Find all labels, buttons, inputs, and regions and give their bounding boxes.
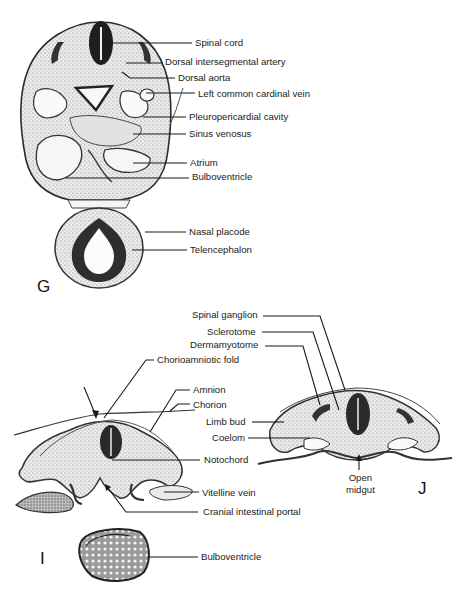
- label-notochord: Notochord: [204, 455, 248, 465]
- panel-j-section: [258, 388, 452, 464]
- label-bulboventricle-i: Bulboventricle: [201, 552, 261, 562]
- label-cranial-intestinal-portal: Cranial intestinal portal: [203, 507, 301, 517]
- label-pleuropericardial-cavity: Pleuropericardial cavity: [189, 112, 288, 122]
- label-nasal-placode: Nasal placode: [189, 227, 250, 237]
- label-spinal-ganglion: Spinal ganglion: [192, 310, 258, 320]
- label-spinal-cord: Spinal cord: [195, 38, 243, 48]
- label-open-midgut: Open midgut: [346, 472, 375, 496]
- label-sclerotome: Sclerotome: [207, 327, 256, 337]
- label-sinus-venosus: Sinus venosus: [189, 129, 251, 139]
- panel-letter-i: I: [40, 550, 45, 567]
- label-coelom: Coelom: [212, 433, 245, 443]
- label-dorsal-intersegmental-artery: Dorsal intersegmental artery: [165, 57, 286, 67]
- label-vitelline-vein: Vitelline vein: [202, 488, 256, 498]
- label-limb-bud: Limb bud: [206, 417, 245, 427]
- label-left-common-cardinal-vein: Left common cardinal vein: [198, 89, 310, 99]
- panel-i-bulboventricle-section: [79, 529, 149, 581]
- label-atrium: Atrium: [190, 158, 218, 168]
- label-dermamyotome: Dermamyotome: [190, 340, 258, 350]
- embryo-cross-sections-figure: G I J Spinal cord Dorsal intersegmental …: [0, 0, 463, 594]
- panel-letter-g: G: [37, 278, 50, 295]
- label-bulboventricle-g: Bulboventricle: [192, 172, 252, 182]
- label-dorsal-aorta: Dorsal aorta: [178, 73, 230, 83]
- panel-g-section: [21, 21, 183, 288]
- label-telencephalon: Telencephalon: [190, 245, 252, 255]
- panel-letter-j: J: [418, 480, 427, 497]
- label-chorion: Chorion: [193, 400, 227, 410]
- label-amnion: Amnion: [193, 385, 226, 395]
- label-chorioamniotic-fold: Chorioamniotic fold: [157, 355, 239, 365]
- panel-i-section: [14, 410, 195, 513]
